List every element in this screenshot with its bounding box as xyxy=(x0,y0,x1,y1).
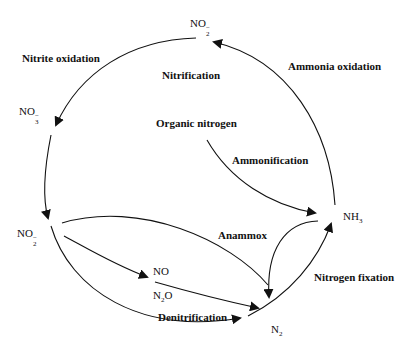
n2o-base: N xyxy=(153,289,161,301)
no3-base: NO xyxy=(19,105,35,117)
label-ammonia-oxidation: Ammonia oxidation xyxy=(288,61,381,72)
arrow-ammonification xyxy=(207,140,315,213)
node-nh3: NH3 xyxy=(343,211,362,225)
arrow-denitrification xyxy=(51,226,240,322)
label-anammox: Anammox xyxy=(218,230,267,241)
arrow-no2-to-no xyxy=(64,236,147,277)
no2-top-ion: −2 xyxy=(206,25,210,38)
no2-left-base: NO xyxy=(17,227,33,239)
label-nitrogen-fixation: Nitrogen fixation xyxy=(314,272,394,283)
no2-top-base: NO xyxy=(190,17,206,29)
n2o-rest: O xyxy=(164,289,172,301)
node-no3: NO−3 xyxy=(19,106,39,126)
node-n2o: N2O xyxy=(153,290,172,304)
node-organic-nitrogen: Organic nitrogen xyxy=(156,118,237,129)
label-denitrification: Denitrification xyxy=(158,312,227,323)
label-nitrite-oxidation: Nitrite oxidation xyxy=(22,53,100,64)
no2-left-ion: −2 xyxy=(33,235,37,248)
no2-top-sub: 2 xyxy=(206,31,210,37)
no3-sub: 3 xyxy=(35,119,39,125)
node-no2-left: NO−2 xyxy=(17,228,37,248)
nh3-base: NH xyxy=(343,210,359,222)
arrow-no3-to-no2 xyxy=(45,135,51,218)
nh3-sub: 3 xyxy=(359,217,363,225)
no2-left-sub: 2 xyxy=(33,241,37,247)
arrow-nh3-to-n2 xyxy=(269,221,318,297)
node-no2-top: NO−2 xyxy=(190,18,210,38)
n2-sub: 2 xyxy=(279,330,283,338)
n2-base: N xyxy=(271,323,279,335)
node-n2: N2 xyxy=(271,324,282,338)
no3-ion: −3 xyxy=(35,113,39,126)
node-no: NO xyxy=(153,266,169,277)
label-nitrification: Nitrification xyxy=(162,70,220,81)
label-ammonification: Ammonification xyxy=(232,155,308,166)
